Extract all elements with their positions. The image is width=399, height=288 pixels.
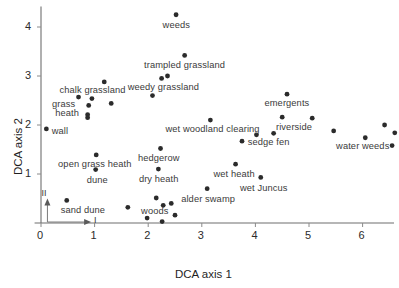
data-point bbox=[363, 135, 368, 140]
x-tick-label: 3 bbox=[198, 229, 204, 241]
point-label: trampled grassland bbox=[144, 60, 225, 70]
data-point bbox=[310, 116, 315, 121]
data-point bbox=[109, 101, 114, 106]
inset-label-i: I bbox=[94, 215, 97, 225]
point-label: wet Juncus bbox=[240, 183, 288, 193]
data-point bbox=[158, 146, 163, 151]
data-point bbox=[150, 93, 155, 98]
data-point bbox=[182, 53, 187, 58]
point-label: hedgerow bbox=[138, 153, 180, 163]
y-axis-title: DCA axis 2 bbox=[12, 118, 24, 175]
data-point bbox=[145, 216, 150, 221]
data-point bbox=[382, 123, 387, 128]
point-label: emergents bbox=[265, 98, 310, 108]
data-point bbox=[205, 186, 210, 191]
x-tick-label: 5 bbox=[305, 229, 311, 241]
data-point bbox=[280, 115, 285, 120]
data-point bbox=[240, 139, 245, 144]
data-point bbox=[165, 74, 170, 79]
data-point bbox=[154, 196, 159, 201]
y-tick-label: 3 bbox=[25, 69, 31, 81]
data-point bbox=[125, 205, 130, 210]
point-label: wet woodland clearing bbox=[166, 124, 260, 134]
point-label: chalk grassland bbox=[60, 85, 126, 95]
data-point bbox=[160, 219, 165, 224]
y-tick-label: 1 bbox=[25, 167, 31, 179]
inset-arrow-right-icon bbox=[84, 219, 91, 225]
data-point bbox=[271, 131, 276, 136]
x-tick-label: 1 bbox=[91, 229, 97, 241]
scatter-plot-figure: DCA axis 2 DCA axis 1 01234561234IIIweed… bbox=[0, 0, 399, 288]
x-tick-label: 4 bbox=[251, 229, 257, 241]
data-point bbox=[102, 79, 107, 84]
y-tick-label: 4 bbox=[25, 20, 31, 32]
point-label: dune bbox=[87, 175, 108, 185]
point-label: wall bbox=[52, 126, 68, 136]
x-tick-label: 2 bbox=[144, 229, 150, 241]
point-label: riverside bbox=[276, 122, 312, 132]
data-point bbox=[174, 12, 179, 17]
data-point bbox=[94, 152, 99, 157]
data-point bbox=[233, 162, 238, 167]
data-point bbox=[86, 103, 91, 108]
inset-arrow-up-icon bbox=[44, 198, 50, 205]
data-point bbox=[208, 118, 213, 123]
data-point bbox=[85, 115, 90, 120]
point-label: heath bbox=[55, 108, 79, 118]
point-label: water weeds bbox=[336, 141, 389, 151]
x-tick-label: 0 bbox=[37, 229, 43, 241]
data-point bbox=[392, 130, 397, 135]
point-label: weedy grassland bbox=[128, 82, 199, 92]
point-label: weeds bbox=[163, 20, 190, 30]
x-axis-title: DCA axis 1 bbox=[175, 268, 232, 280]
data-point bbox=[173, 213, 178, 218]
data-point bbox=[285, 92, 290, 97]
x-tick-label: 6 bbox=[359, 229, 365, 241]
inset-label-ii: II bbox=[41, 188, 46, 198]
y-tick-label: 2 bbox=[25, 118, 31, 130]
point-label: woods bbox=[141, 206, 168, 216]
point-label: open grass heath bbox=[58, 159, 131, 169]
data-point bbox=[44, 127, 49, 132]
point-label: dry heath bbox=[139, 174, 179, 184]
data-point bbox=[331, 128, 336, 133]
data-point bbox=[76, 95, 81, 100]
point-label: wet heath bbox=[214, 169, 255, 179]
data-point bbox=[159, 76, 164, 81]
point-label: sedge fen bbox=[248, 137, 290, 147]
data-point bbox=[169, 201, 174, 206]
data-point bbox=[90, 96, 95, 101]
point-label: alder swamp bbox=[181, 194, 235, 204]
data-point bbox=[64, 198, 69, 203]
data-point bbox=[258, 175, 263, 180]
point-label: sand dune bbox=[61, 205, 105, 215]
data-point bbox=[156, 167, 161, 172]
data-point bbox=[390, 143, 395, 148]
